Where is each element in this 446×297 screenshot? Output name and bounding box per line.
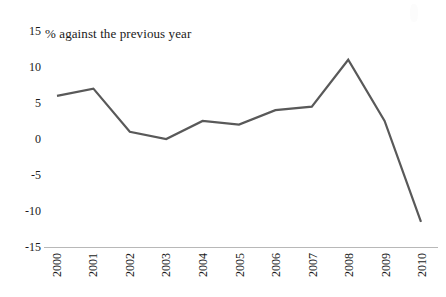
data-series-line: [57, 60, 421, 222]
plot-area: [0, 0, 446, 297]
chart-container: % against the previous year 15 10 5 0 -5…: [0, 0, 446, 297]
